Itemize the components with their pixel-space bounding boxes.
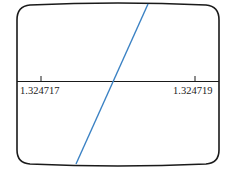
- function-line: [76, 4, 148, 164]
- x-tick-label-2: 1.324719: [173, 85, 212, 96]
- graphing-calculator-screen: 1.324717 1.324719: [0, 0, 227, 173]
- x-tick-label-1: 1.324717: [20, 85, 59, 96]
